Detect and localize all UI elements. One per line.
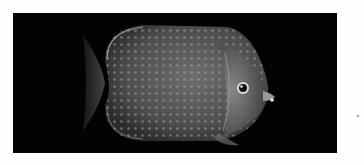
fish-photo [13,13,337,153]
butterflyfish-illustration [13,13,337,153]
tail-fin [83,35,105,131]
scan-speck [357,115,359,117]
